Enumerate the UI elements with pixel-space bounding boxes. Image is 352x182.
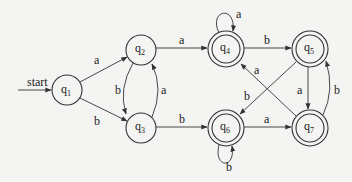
edge-q5-q6: b — [240, 62, 296, 114]
edge-q4-q5: b — [244, 33, 291, 48]
edge-q1-q2: a — [80, 53, 127, 82]
edge-q6-q6: b — [218, 145, 232, 174]
edge-label: b — [264, 33, 270, 47]
edge-label: b — [334, 83, 340, 97]
edge-label: a — [94, 53, 100, 67]
edge-q6-q7: a — [244, 112, 291, 127]
edge-label: a — [179, 33, 185, 47]
edge-q7-q5: b — [323, 61, 340, 115]
edge-label: b — [94, 114, 100, 128]
edge-q3-q6: b — [156, 112, 207, 127]
edge-label: a — [264, 112, 270, 126]
start-label: start — [27, 75, 48, 89]
edge-label: a — [161, 83, 167, 97]
edge-q3-q2: a — [152, 64, 167, 117]
edge-q1-q3: b — [80, 98, 127, 128]
edge-label: a — [254, 63, 260, 77]
edge-label: a — [297, 83, 303, 97]
automaton-diagram: start a b b a a b a b a b b — [0, 0, 352, 182]
edge-label: b — [179, 112, 185, 126]
edge-q5-q7: a — [297, 66, 308, 109]
state-q2: q2 — [126, 35, 156, 65]
state-q4: q4 — [208, 31, 244, 67]
start-arrow: start — [18, 75, 51, 90]
state-q7: q7 — [292, 110, 328, 146]
edge-q2-q3: b — [115, 63, 133, 114]
edge-label: b — [226, 160, 232, 174]
state-q5: q5 — [292, 31, 328, 67]
edge-q2-q4: a — [156, 33, 207, 48]
state-q3: q3 — [126, 113, 156, 143]
state-q1: q1 — [52, 75, 82, 105]
edge-label: b — [115, 83, 121, 97]
state-q6: q6 — [208, 110, 244, 146]
edge-q4-q4: a — [216, 7, 242, 33]
edge-label: b — [244, 89, 250, 103]
edge-label: a — [236, 7, 242, 21]
